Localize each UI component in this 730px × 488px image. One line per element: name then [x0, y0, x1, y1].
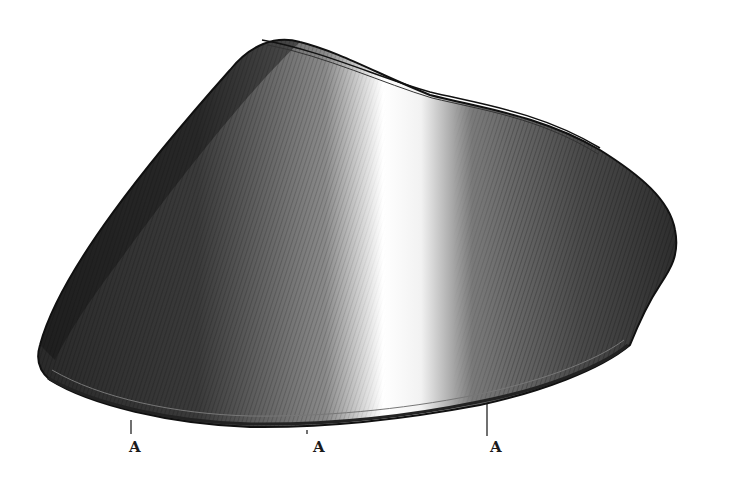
- hoof-body: [0, 0, 730, 488]
- label-a1: A: [129, 438, 141, 456]
- hoof-engraving: [0, 0, 730, 488]
- label-a2: A: [313, 438, 325, 456]
- label-a3: A: [490, 438, 502, 456]
